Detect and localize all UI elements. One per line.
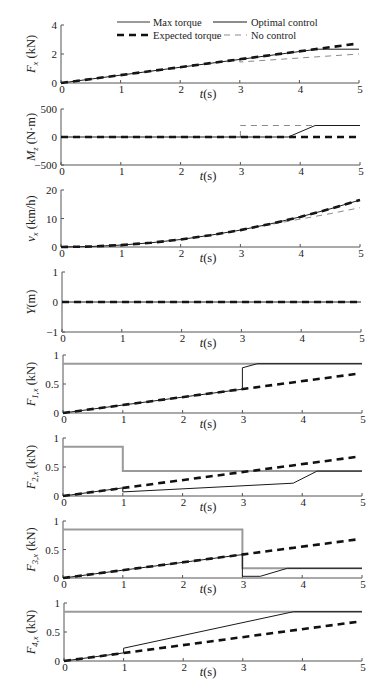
x-tick-label: 1 <box>119 83 125 95</box>
x-tick-label: 0 <box>61 578 67 590</box>
x-axis-unit: (s) <box>203 500 216 514</box>
y-tick-label: 0.5 <box>45 461 59 473</box>
x-tick-label: 2 <box>179 247 185 259</box>
y-tick-label: 1 <box>55 597 61 609</box>
y-tick-label: 0 <box>54 572 60 584</box>
y-tick-label: 1 <box>54 515 60 527</box>
x-tick-label: 3 <box>241 578 247 590</box>
x-tick-label: 5 <box>357 83 363 95</box>
y-axis-symbol: F <box>24 646 38 655</box>
y-axis-symbol: F <box>24 398 38 407</box>
x-tick-label: 1 <box>119 247 125 259</box>
y-axis-label: Y(m) <box>24 289 38 314</box>
y-axis-symbol: F <box>24 564 38 573</box>
x-tick-label: 3 <box>240 332 246 344</box>
y-tick-label: 500 <box>41 103 58 115</box>
x-axis-label: t(s) <box>200 87 217 101</box>
x-tick-label: 2 <box>181 578 187 590</box>
y-tick-label: −1 <box>46 326 58 338</box>
x-axis-label: t(s) <box>200 665 217 679</box>
x-tick-label: 0 <box>61 413 67 425</box>
x-tick-label: 2 <box>181 661 187 673</box>
y-axis-subscript: 1,x <box>30 388 40 398</box>
legend-label: Expected torque <box>153 30 222 41</box>
y-axis-symbol: M <box>24 150 38 162</box>
x-tick-label: 4 <box>298 165 304 177</box>
x-axis-unit: (s) <box>203 169 216 183</box>
x-tick-label: 0 <box>61 496 67 508</box>
x-axis-label: t(s) <box>200 251 217 265</box>
x-axis-label: t(s) <box>200 336 217 350</box>
y-axis-unit: (N·m) <box>24 113 38 147</box>
legend-label: Optimal control <box>251 17 318 28</box>
x-tick-label: 3 <box>241 661 247 673</box>
x-tick-label: 3 <box>241 496 247 508</box>
x-tick-label: 0 <box>59 247 65 259</box>
y-tick-label: 0 <box>54 407 60 419</box>
y-axis-symbol: F <box>24 65 38 74</box>
y-axis-unit: (km/h) <box>24 195 38 232</box>
x-tick-label: 4 <box>301 661 307 673</box>
x-axis-unit: (s) <box>203 417 216 431</box>
y-axis-unit: (kN) <box>24 362 38 389</box>
x-tick-label: 5 <box>358 247 364 259</box>
x-tick-label: 2 <box>179 165 185 177</box>
x-tick-label: 0 <box>59 165 65 177</box>
y-tick-label: 0 <box>55 655 61 667</box>
x-tick-label: 5 <box>360 496 366 508</box>
x-tick-label: 5 <box>358 165 364 177</box>
figure: 024012345t(s)Fx (kN)Max torqueOptimal co… <box>0 0 382 692</box>
x-tick-label: 4 <box>298 247 304 259</box>
y-tick-label: 2 <box>52 48 58 60</box>
y-tick-label: 1 <box>53 266 59 278</box>
x-axis-label: t(s) <box>200 417 217 431</box>
x-tick-label: 2 <box>178 83 184 95</box>
stacked-line-charts: 024012345t(s)Fx (kN)Max torqueOptimal co… <box>0 0 382 692</box>
y-tick-label: 0.5 <box>45 378 59 390</box>
x-tick-label: 1 <box>119 165 125 177</box>
x-tick-label: 2 <box>181 496 187 508</box>
y-tick-label: 1 <box>54 349 60 361</box>
y-axis-subscript: 4,x <box>30 636 40 646</box>
y-tick-label: 10 <box>46 213 58 225</box>
y-axis-unit: (kN) <box>24 35 38 62</box>
x-axis-unit: (s) <box>203 582 216 596</box>
x-tick-label: 3 <box>241 413 247 425</box>
y-axis-label: F2,x (kN) <box>24 445 40 491</box>
background <box>0 0 382 692</box>
x-tick-label: 2 <box>180 332 186 344</box>
x-axis-unit: (s) <box>203 665 216 679</box>
legend-label: No control <box>251 30 296 41</box>
x-tick-label: 3 <box>239 165 245 177</box>
x-tick-label: 1 <box>120 332 126 344</box>
x-tick-label: 1 <box>121 413 127 425</box>
x-tick-label: 5 <box>360 661 366 673</box>
y-tick-label: 0 <box>52 131 58 143</box>
y-axis-unit: (kN) <box>24 610 38 637</box>
x-tick-label: 1 <box>121 496 127 508</box>
y-tick-label: 0 <box>52 77 58 89</box>
y-tick-label: 0.5 <box>45 544 59 556</box>
x-tick-label: 4 <box>299 332 305 344</box>
x-axis-unit: (s) <box>203 87 216 101</box>
x-axis-label: t(s) <box>200 500 217 514</box>
x-axis-unit: (s) <box>203 336 216 350</box>
y-axis-unit: (kN) <box>24 445 38 472</box>
y-tick-label: 0 <box>53 296 59 308</box>
x-tick-label: 0 <box>62 661 68 673</box>
y-tick-label: 0 <box>54 490 60 502</box>
x-tick-label: 5 <box>360 578 366 590</box>
x-tick-label: 1 <box>121 578 127 590</box>
y-tick-label: 0.5 <box>46 626 60 638</box>
y-axis-label: Mz (N·m) <box>24 113 40 162</box>
y-axis-label: F3,x (kN) <box>24 527 40 573</box>
x-tick-label: 4 <box>298 83 304 95</box>
y-axis-label: F1,x (kN) <box>24 362 40 408</box>
x-tick-label: 0 <box>60 332 66 344</box>
y-axis-subscript: 2,x <box>30 471 40 481</box>
x-tick-label: 5 <box>360 413 366 425</box>
y-tick-label: 0 <box>52 241 58 253</box>
x-tick-label: 2 <box>181 413 187 425</box>
y-tick-label: 1 <box>54 432 60 444</box>
y-axis-label: Fx (kN) <box>24 35 40 74</box>
